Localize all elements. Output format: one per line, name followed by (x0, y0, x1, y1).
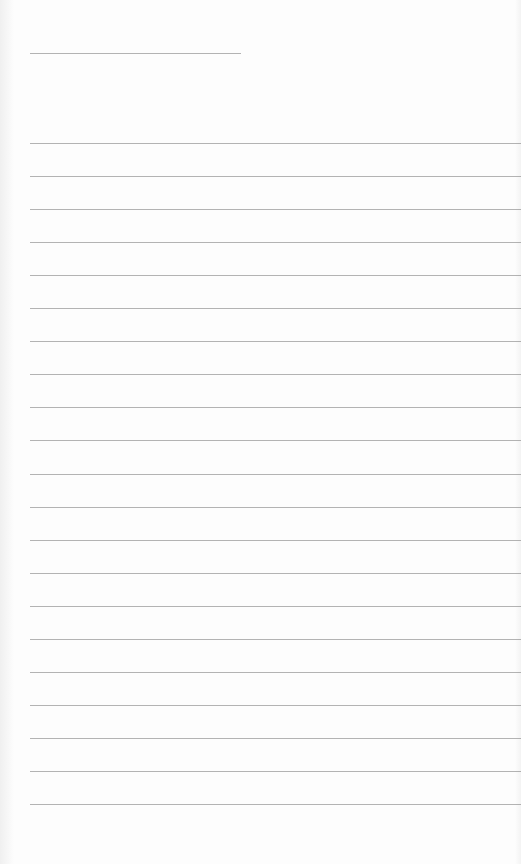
ruled-line (30, 540, 521, 541)
ruled-line (30, 407, 521, 408)
ruled-line (30, 507, 521, 508)
ruled-line (30, 606, 521, 607)
ruled-line (30, 440, 521, 441)
ruled-line (30, 308, 521, 309)
ruled-line (30, 474, 521, 475)
ruled-line (30, 341, 521, 342)
ruled-line (30, 771, 521, 772)
ruled-line (30, 275, 521, 276)
ruled-line (30, 672, 521, 673)
lined-paper-page (0, 0, 521, 864)
ruled-line (30, 738, 521, 739)
ruled-line (30, 804, 521, 805)
ruled-line (30, 639, 521, 640)
ruled-line (30, 242, 521, 243)
ruled-line (30, 374, 521, 375)
ruled-line (30, 176, 521, 177)
header-short-line (30, 53, 241, 54)
ruled-line (30, 209, 521, 210)
ruled-line (30, 143, 521, 144)
ruled-line (30, 573, 521, 574)
ruled-line (30, 705, 521, 706)
